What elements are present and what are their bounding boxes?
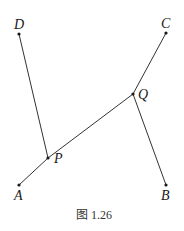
point-B	[164, 183, 167, 186]
point-D	[17, 32, 20, 35]
segment-DP	[19, 34, 48, 158]
point-C	[164, 31, 167, 34]
label-D: D	[13, 17, 24, 32]
point-A	[17, 183, 20, 186]
label-A: A	[13, 188, 23, 203]
point-Q	[131, 92, 134, 95]
label-B: B	[161, 188, 170, 203]
label-Q: Q	[138, 87, 148, 102]
segment-AP	[19, 158, 48, 185]
segment-QC	[133, 33, 166, 94]
segment-PQ	[48, 94, 133, 158]
label-C: C	[161, 16, 171, 31]
label-P: P	[53, 151, 63, 166]
segment-QB	[133, 94, 166, 185]
figure-caption: 图 1.26	[76, 208, 112, 222]
point-P	[46, 156, 49, 159]
geometry-diagram: D C Q P A B 图 1.26	[0, 0, 184, 231]
